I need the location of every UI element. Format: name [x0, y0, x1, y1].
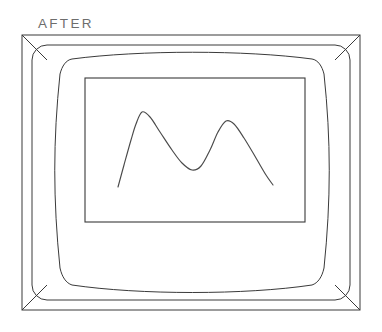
figure-caption-after: AFTER: [38, 16, 94, 31]
monitor-outer-casing: [22, 35, 360, 310]
crt-monitor-illustration: AFTER: [0, 0, 382, 332]
figure-root: AFTER: [0, 0, 382, 332]
